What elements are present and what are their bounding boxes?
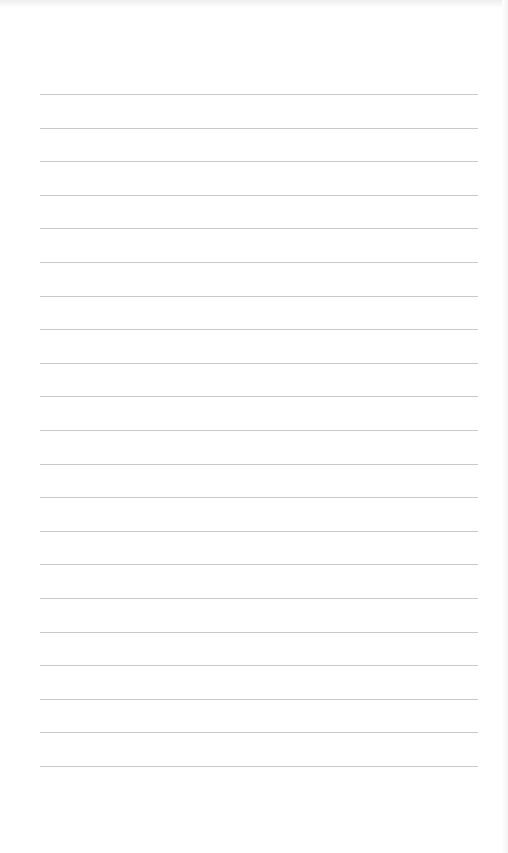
ruled-line xyxy=(40,564,478,565)
ruled-line xyxy=(40,128,478,129)
ruled-line xyxy=(40,665,478,666)
ruled-line xyxy=(40,464,478,465)
ruled-line xyxy=(40,699,478,700)
ruled-line xyxy=(40,296,478,297)
ruled-line xyxy=(40,430,478,431)
ruled-line xyxy=(40,531,478,532)
ruled-line xyxy=(40,632,478,633)
ruled-line xyxy=(40,195,478,196)
ruled-line xyxy=(40,598,478,599)
ruled-line xyxy=(40,396,478,397)
ruled-line xyxy=(40,262,478,263)
ruled-line xyxy=(40,161,478,162)
ruled-line xyxy=(40,228,478,229)
paper-right-edge-shadow xyxy=(502,0,508,853)
ruled-line xyxy=(40,329,478,330)
ruled-line xyxy=(40,497,478,498)
ruled-line xyxy=(40,94,478,95)
paper-top-edge-shadow xyxy=(0,0,508,8)
ruled-line xyxy=(40,766,478,767)
ruled-line xyxy=(40,732,478,733)
ruled-line xyxy=(40,363,478,364)
